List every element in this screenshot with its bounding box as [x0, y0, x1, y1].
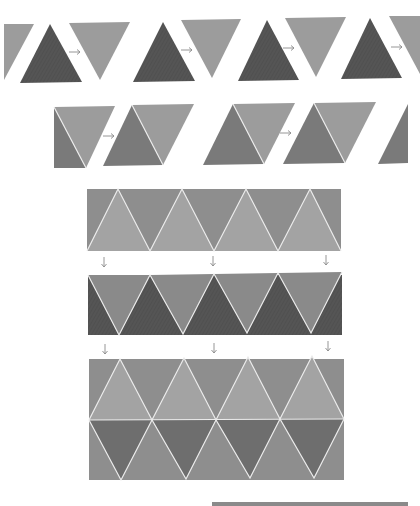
row1-triangle-sequence — [4, 16, 420, 83]
right-arrow-icon — [103, 134, 114, 139]
down-arrow-icon — [212, 343, 217, 353]
inverted-triangle — [285, 17, 346, 77]
right-arrow-icon — [181, 48, 192, 53]
upright-dark-triangle — [20, 24, 82, 83]
right-arrow-icon — [280, 131, 291, 136]
row2-parallelogram-sequence — [54, 102, 408, 168]
strip1-light-triangles — [87, 189, 341, 251]
down-arrows-row1 — [102, 255, 329, 267]
upright-dark-triangle — [238, 20, 299, 81]
down-arrow-icon — [103, 344, 108, 354]
upright-dark-triangle — [133, 22, 195, 82]
tessellation-diagram — [0, 0, 420, 506]
down-arrow-icon — [324, 255, 329, 265]
upright-dark-triangle — [341, 18, 402, 79]
down-arrow-icon — [102, 257, 107, 267]
down-arrow-icon — [211, 256, 216, 266]
right-arrow-icon — [391, 45, 402, 50]
half-triangle-right — [378, 104, 408, 164]
bottom-strip-edge — [212, 502, 408, 506]
down-arrows-row2 — [103, 341, 331, 354]
right-arrow-icon — [283, 46, 294, 51]
strip2-dark-triangles — [88, 272, 342, 335]
down-arrow-icon — [326, 341, 331, 351]
right-arrow-icon — [69, 50, 80, 55]
strip3-tessellation — [89, 356, 344, 480]
